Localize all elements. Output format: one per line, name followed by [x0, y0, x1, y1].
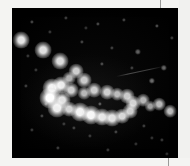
plate-margin-right [179, 0, 190, 166]
photographic-plate [0, 0, 190, 166]
plate-margin-top [0, 0, 190, 8]
plate-edge-vignette [12, 8, 178, 158]
sky-field [12, 8, 178, 158]
plate-margin-bottom [0, 158, 190, 166]
plate-margin-left [0, 0, 12, 166]
